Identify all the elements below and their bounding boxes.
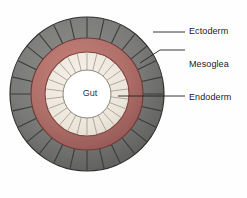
gut-label: Gut xyxy=(75,88,105,98)
diagram-canvas: Gut Ectoderm Mesoglea Endoderm xyxy=(0,0,247,198)
label-ectoderm: Ectoderm xyxy=(189,26,228,36)
label-mesoglea: Mesoglea xyxy=(189,59,229,69)
label-endoderm: Endoderm xyxy=(189,92,231,102)
